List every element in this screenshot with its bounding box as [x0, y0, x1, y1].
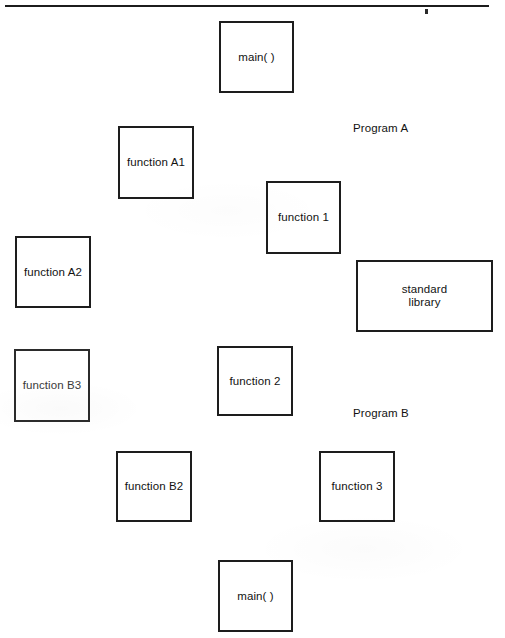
node-label-function-a2: function A2 [24, 266, 82, 279]
diagram-canvas: Program A Program B main( ) function A1 … [0, 0, 505, 638]
node-label-function-b2: function B2 [125, 480, 184, 493]
node-function-1[interactable]: function 1 [266, 181, 341, 254]
node-label-function-3: function 3 [332, 480, 383, 493]
group-label-program-b: Program B [353, 406, 409, 420]
node-function-b2[interactable]: function B2 [116, 451, 192, 522]
node-function-b3[interactable]: function B3 [14, 349, 90, 422]
group-label-program-a: Program A [353, 121, 408, 135]
node-main-top[interactable]: main( ) [219, 21, 294, 93]
node-label-function-b3: function B3 [23, 379, 82, 392]
node-label-standard-library: standard library [402, 283, 448, 309]
top-horizontal-rule [5, 5, 489, 7]
node-label-function-a1: function A1 [127, 156, 185, 169]
node-function-3[interactable]: function 3 [319, 451, 395, 522]
node-function-2[interactable]: function 2 [217, 346, 293, 416]
node-label-function-1: function 1 [278, 211, 329, 224]
node-label-main-top: main( ) [238, 51, 274, 64]
rule-tick-mark [425, 9, 428, 14]
node-label-function-2: function 2 [230, 375, 281, 388]
node-function-a2[interactable]: function A2 [15, 236, 91, 308]
node-main-bottom[interactable]: main( ) [218, 560, 293, 632]
node-function-a1[interactable]: function A1 [118, 126, 194, 199]
node-standard-library[interactable]: standard library [356, 260, 493, 332]
node-label-main-bottom: main( ) [237, 590, 273, 603]
